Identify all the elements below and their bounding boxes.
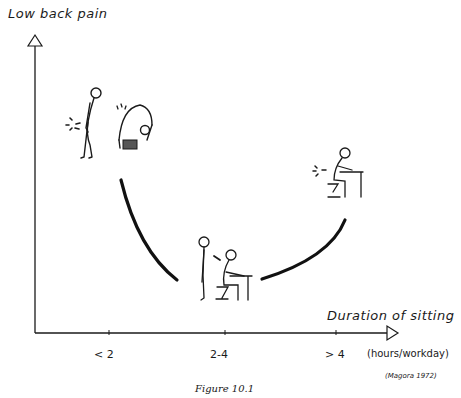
illustration-moderate-sitting (199, 237, 252, 300)
x-tick-long: > 4 (325, 348, 345, 361)
pain-curve-left (121, 180, 177, 280)
figure-caption: Figure 10.1 (195, 383, 254, 394)
x-axis-label: Duration of sitting (327, 308, 454, 323)
pain-curve-right (262, 220, 345, 279)
figure: Low back pain Duration of sitting < 2 2-… (0, 0, 461, 398)
illustration-short-sitting (66, 88, 152, 158)
x-axis-unit: (hours/workday) (367, 348, 449, 359)
x-axis (35, 326, 398, 340)
y-axis (28, 35, 42, 333)
source-citation: (Magora 1972) (385, 372, 437, 380)
x-tick-short: < 2 (94, 348, 114, 361)
illustration-long-sitting (313, 148, 363, 197)
diagram-canvas (0, 0, 461, 398)
y-axis-label: Low back pain (8, 6, 108, 21)
x-tick-moderate: 2-4 (210, 348, 228, 361)
